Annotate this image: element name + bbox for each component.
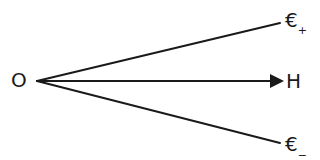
diagram-canvas (0, 0, 320, 160)
lower-ray-symbol: € (285, 132, 298, 156)
lower-ray-label: €− (285, 134, 307, 154)
middle-ray-symbol: H (286, 69, 301, 93)
arrowhead-icon (270, 74, 284, 88)
origin-label: O (11, 70, 27, 90)
lower-ray-line (37, 81, 280, 143)
upper-ray-symbol: € (285, 8, 298, 32)
lower-ray-subscript: − (298, 149, 307, 160)
upper-ray-label: €+ (285, 10, 307, 30)
middle-ray-label: H (286, 71, 301, 91)
upper-ray-line (37, 23, 280, 81)
upper-ray-subscript: + (298, 24, 307, 37)
origin-label-text: O (11, 68, 27, 92)
